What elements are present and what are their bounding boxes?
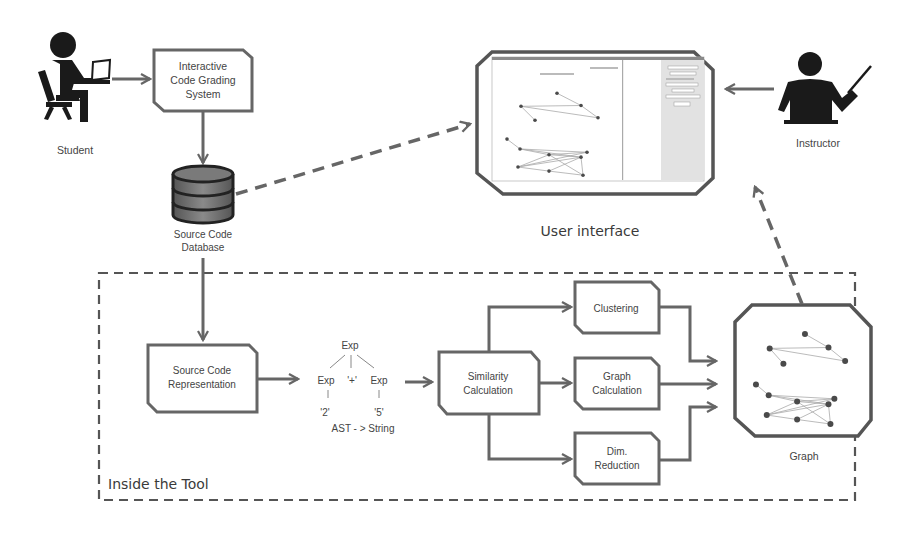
ui-thumb-button	[670, 72, 696, 75]
graph-node	[547, 153, 551, 157]
system-line-3: System	[185, 88, 220, 100]
ui-thumb-button	[672, 89, 694, 92]
graph-node	[802, 331, 808, 337]
graph-node	[533, 118, 537, 122]
graph-node	[766, 392, 772, 398]
similarity-calculation-box[interactable]: Similarity Calculation	[439, 352, 539, 414]
graph-calc-line-2: Calculation	[592, 385, 641, 396]
user-interface-frame[interactable]	[477, 52, 713, 194]
system-line-1: Interactive	[179, 60, 228, 72]
graph-node	[794, 417, 800, 423]
arrow-similarity-to-clustering	[489, 307, 571, 352]
similarity-line-2: Calculation	[463, 385, 512, 396]
dashed-arrow-database-to-ui	[236, 124, 470, 194]
ast-operator: '+'	[347, 375, 357, 386]
ui-thumb-button	[674, 102, 690, 106]
ast-root: Exp	[341, 340, 359, 351]
graph-node	[547, 169, 551, 173]
arrow-clustering-to-graph	[659, 307, 716, 361]
database-label-2: Database	[182, 242, 225, 253]
graph-node	[579, 104, 583, 108]
graph-output-box[interactable]	[735, 305, 871, 436]
representation-line-1: Source Code	[173, 365, 232, 376]
graph-node	[753, 381, 759, 387]
ui-thumb-toolbar	[590, 67, 618, 69]
dim-reduction-line-1: Dim.	[607, 446, 628, 457]
ast-tree: Exp Exp '+' Exp '2' '5' AST - > String	[317, 340, 394, 434]
ui-thumb-title	[540, 73, 574, 75]
ui-thumb-select	[666, 83, 698, 86]
arrow-dim-reduction-to-graph	[659, 407, 716, 460]
student-label: Student	[57, 144, 93, 156]
graph-node	[555, 91, 559, 95]
dim-reduction-line-2: Reduction	[594, 460, 639, 471]
clustering-label: Clustering	[593, 303, 638, 314]
ui-thumb-field	[666, 78, 694, 80]
representation-line-2: Representation	[168, 379, 236, 390]
code-grading-system-box[interactable]: Interactive Code Grading System	[154, 50, 252, 111]
ast-right-exp: Exp	[370, 375, 388, 386]
graph-node	[505, 137, 509, 141]
student-icon	[38, 32, 110, 123]
ast-left-exp: Exp	[317, 375, 335, 386]
graph-node	[518, 147, 522, 151]
user-interface-label: User interface	[541, 223, 640, 239]
clustering-box[interactable]: Clustering	[575, 282, 659, 333]
source-code-representation-box[interactable]: Source Code Representation	[148, 345, 257, 412]
database-label-1: Source Code	[174, 229, 233, 240]
ui-screenshot-thumbnail	[492, 57, 704, 181]
graph-node	[825, 401, 831, 407]
dashed-arrow-graph-to-ui	[755, 187, 802, 304]
graph-node	[794, 399, 800, 405]
graph-calc-line-1: Graph	[603, 371, 631, 382]
graph-node	[831, 396, 837, 402]
ui-thumb-button	[668, 66, 698, 69]
graph-node	[516, 165, 520, 169]
ast-left-leaf: '2'	[320, 407, 329, 418]
graph-node	[827, 421, 833, 427]
graph-node	[519, 105, 523, 109]
graph-node	[767, 345, 773, 351]
ast-caption: AST - > String	[332, 423, 395, 434]
ui-thumb-select	[666, 95, 700, 98]
graph-node	[842, 358, 848, 364]
architecture-diagram: Student Interactive Code Grading System …	[0, 0, 917, 534]
arrow-similarity-to-dim-reduction	[489, 414, 571, 459]
ast-right-leaf: '5'	[374, 407, 383, 418]
graph-node	[764, 412, 770, 418]
graph-node	[596, 116, 600, 120]
instructor-icon	[778, 52, 871, 124]
graph-node	[581, 173, 585, 177]
graph-node	[585, 150, 589, 154]
similarity-line-1: Similarity	[468, 371, 509, 382]
system-line-2: Code Grading	[170, 74, 236, 86]
database-icon	[173, 166, 233, 223]
graph-node	[579, 155, 583, 159]
instructor-label: Instructor	[796, 137, 840, 149]
inside-tool-label: Inside the Tool	[108, 476, 209, 492]
graph-node	[825, 345, 831, 351]
graph-calculation-box[interactable]: Graph Calculation	[575, 358, 659, 409]
dim-reduction-box[interactable]: Dim. Reduction	[575, 433, 659, 484]
graph-node	[780, 361, 786, 367]
graph-output-label: Graph	[789, 450, 818, 462]
